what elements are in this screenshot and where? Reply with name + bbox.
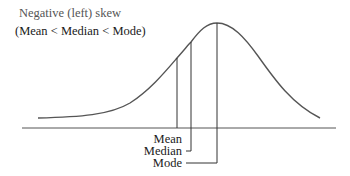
mode-label: Mode [145,157,182,170]
distribution-curve [38,23,320,118]
